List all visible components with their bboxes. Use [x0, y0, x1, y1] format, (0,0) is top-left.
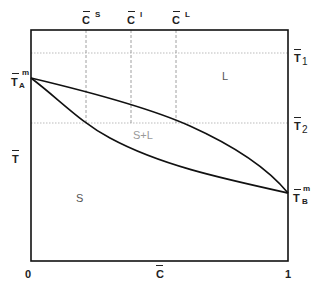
tb-melting-sup: m	[303, 185, 310, 193]
cs-marker-label: C	[82, 15, 90, 26]
x-tick-1: 1	[285, 269, 291, 280]
y-axis-label: T	[12, 154, 19, 165]
cl-marker-sup: l	[140, 11, 142, 19]
cL-marker-sup: L	[185, 11, 190, 19]
region-solid-label: S	[76, 193, 83, 204]
x-axis-label: C	[156, 269, 164, 280]
ta-melting-sup: m	[22, 69, 29, 77]
cl-marker-label: C	[127, 15, 135, 26]
cs-marker-sup: S	[95, 11, 100, 19]
ta-melting-label: T	[11, 77, 18, 88]
region-liquid-label: L	[222, 71, 228, 82]
x-tick-0: 0	[25, 269, 31, 280]
plot-frame	[31, 30, 288, 261]
t1-marker-label: T	[294, 53, 301, 64]
t1-marker-sub: 1	[302, 57, 308, 67]
solidus-curve	[31, 78, 288, 193]
region-two-phase-label: S+L	[133, 130, 153, 141]
tb-melting-label: T	[293, 193, 300, 204]
cL-marker-label: C	[172, 15, 180, 26]
tb-melting-sub: B	[302, 198, 308, 206]
ta-melting-sub: A	[19, 82, 25, 90]
t2-marker-label: T	[294, 121, 301, 132]
t2-marker-sub: 2	[302, 125, 308, 135]
liquidus-curve	[31, 78, 288, 193]
phase-diagram-canvas	[0, 0, 316, 291]
